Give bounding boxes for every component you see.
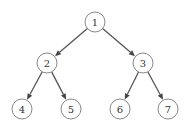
edge-1-3 — [103, 28, 135, 56]
tree-node-1: 1 — [85, 12, 105, 32]
tree-node-3: 3 — [133, 53, 153, 73]
nodes-layer: 1234567 — [12, 12, 178, 119]
edge-3-6 — [125, 72, 139, 100]
edge-1-2 — [55, 28, 87, 56]
node-label: 3 — [140, 58, 146, 69]
tree-node-2: 2 — [37, 53, 57, 73]
edge-line — [30, 72, 42, 95]
edge-line — [52, 72, 64, 95]
node-label: 4 — [19, 104, 25, 115]
node-label: 6 — [117, 104, 123, 115]
tree-node-7: 7 — [158, 99, 178, 119]
tree-node-5: 5 — [61, 99, 81, 119]
binary-tree-diagram: 1234567 — [0, 0, 190, 126]
edge-line — [127, 72, 138, 94]
edge-2-5 — [52, 72, 67, 100]
tree-node-4: 4 — [12, 99, 32, 119]
edge-2-4 — [27, 72, 42, 100]
edge-line — [60, 28, 88, 52]
node-label: 1 — [92, 17, 98, 28]
edge-line — [148, 72, 160, 95]
edge-line — [103, 28, 131, 52]
node-label: 7 — [165, 104, 171, 115]
edge-3-7 — [148, 72, 163, 100]
tree-node-6: 6 — [110, 99, 130, 119]
node-label: 5 — [68, 104, 74, 115]
node-label: 2 — [44, 58, 50, 69]
